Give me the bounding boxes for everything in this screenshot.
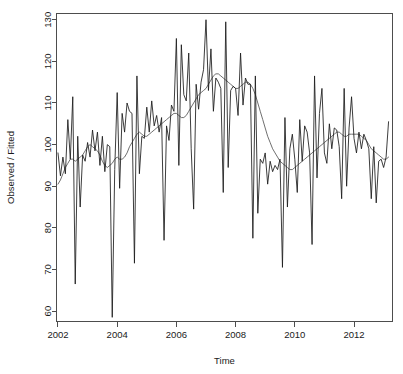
x-tick-label: 2004: [107, 329, 128, 340]
x-tick-label: 2002: [47, 329, 68, 340]
chart-background: [0, 0, 403, 374]
x-tick-label: 2010: [284, 329, 305, 340]
x-axis-title: Time: [214, 355, 235, 366]
y-axis-title: Observed / Fitted: [5, 131, 16, 204]
y-tick-label: 120: [42, 53, 53, 69]
y-tick-label: 90: [42, 181, 53, 192]
x-tick-label: 2006: [166, 329, 187, 340]
y-tick-label: 130: [42, 12, 53, 28]
chart-container: 60708090100110120130 2002200420062008201…: [0, 0, 403, 374]
y-tick-label: 110: [42, 95, 53, 110]
y-tick-label: 70: [42, 264, 53, 275]
y-tick-label: 100: [42, 137, 53, 153]
y-tick-label: 80: [42, 223, 53, 234]
time-series-chart: 60708090100110120130 2002200420062008201…: [0, 0, 403, 374]
y-tick-label: 60: [42, 306, 53, 317]
x-tick-label: 2008: [225, 329, 246, 340]
x-tick-label: 2012: [343, 329, 364, 340]
